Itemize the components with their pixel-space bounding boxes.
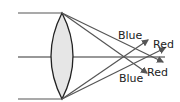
convex-lens	[51, 13, 73, 99]
ray-top-blue	[62, 13, 147, 73]
label-red-bottom: Red	[147, 66, 168, 79]
label-blue-bottom: Blue	[119, 72, 144, 85]
ray-top-red	[62, 13, 163, 62]
lens-diagram: Blue Red Red Blue	[0, 0, 180, 102]
label-blue-top: Blue	[118, 29, 143, 42]
ray-bottom-blue	[62, 40, 148, 99]
label-red-top: Red	[153, 38, 174, 51]
